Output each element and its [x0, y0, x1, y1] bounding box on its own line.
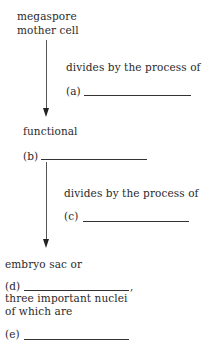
- blank-e-label: (e): [5, 328, 20, 341]
- arrow-shaft-2: [46, 162, 47, 239]
- arrow-down-icon: [43, 239, 49, 248]
- node-megaspore-line1: megaspore: [17, 10, 77, 23]
- blank-b-label: (b): [23, 150, 38, 163]
- blank-c[interactable]: [83, 221, 189, 222]
- comma: ,: [130, 280, 133, 293]
- process-label-1: divides by the process of: [66, 61, 201, 74]
- node-embryo-sac: embryo sac or: [5, 258, 82, 271]
- blank-a[interactable]: [84, 95, 191, 96]
- blank-e[interactable]: [24, 339, 129, 340]
- node-functional: functional: [23, 125, 78, 138]
- blank-d[interactable]: [24, 290, 129, 291]
- nuclei-line2: of which are: [5, 305, 72, 318]
- nuclei-line1: three important nuclei: [5, 292, 127, 305]
- process-label-2: divides by the process of: [64, 187, 199, 200]
- blank-b[interactable]: [41, 159, 147, 160]
- blank-a-label: (a): [66, 85, 81, 98]
- blank-c-label: (c): [64, 210, 78, 223]
- arrow-shaft-1: [46, 40, 47, 108]
- node-megaspore-line2: mother cell: [17, 24, 79, 37]
- arrow-down-icon: [43, 108, 49, 117]
